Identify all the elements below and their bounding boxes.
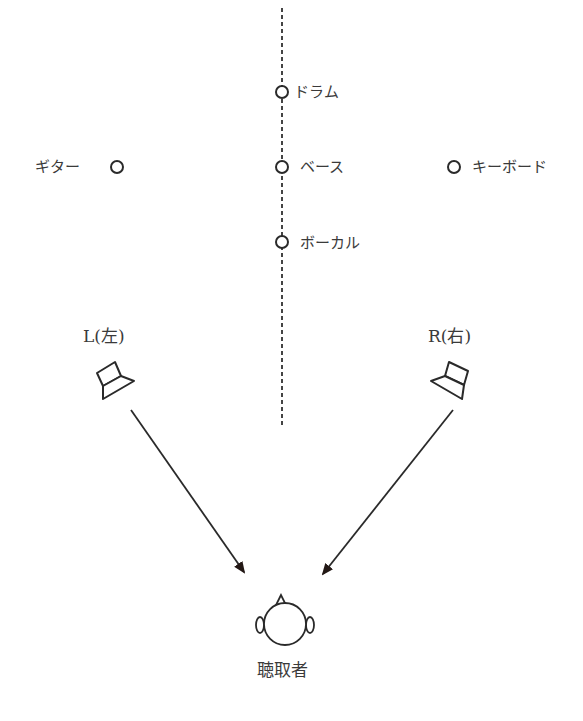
- right-speaker-label: R(右): [428, 326, 471, 346]
- left-speaker-label: L(左): [83, 326, 125, 346]
- left-speaker-icon: [97, 362, 134, 399]
- listener-label: 聴取者: [257, 660, 308, 680]
- guitar-label: ギター: [35, 158, 80, 176]
- right-sound-arrow: [323, 410, 453, 574]
- left-sound-arrow: [131, 410, 244, 572]
- vocal-marker: [276, 236, 288, 248]
- bass-marker: [276, 161, 288, 173]
- listener-head-icon: [256, 595, 314, 645]
- drums-marker: [276, 86, 288, 98]
- stereo-diagram: ドラム ギター ベース キーボード ボーカル L(左) R(右) 聴取者: [0, 0, 583, 721]
- bass-label: ベース: [300, 158, 344, 176]
- right-speaker-icon: [431, 362, 468, 399]
- drums-label: ドラム: [294, 83, 339, 101]
- keyboard-marker: [448, 161, 460, 173]
- guitar-marker: [111, 161, 123, 173]
- keyboard-label: キーボード: [472, 158, 547, 176]
- vocal-label: ボーカル: [300, 234, 360, 252]
